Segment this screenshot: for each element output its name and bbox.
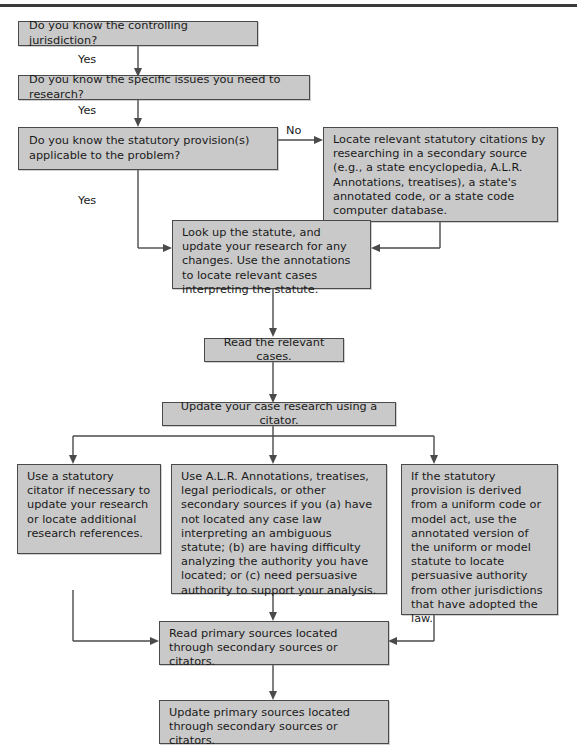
- node-statutory-citator-label: Use a statutory citator if necessary to …: [27, 470, 151, 541]
- node-update-case-research-label: Update your case research using a citato…: [173, 400, 385, 428]
- node-look-up-statute-label: Look up the statute, and update your res…: [182, 226, 361, 297]
- node-look-up-statute[interactable]: Look up the statute, and update your res…: [172, 220, 371, 289]
- node-update-primary-sources-label: Update primary sources located through s…: [169, 706, 379, 749]
- node-specific-issues-label: Do you know the specific issues you need…: [29, 73, 299, 101]
- node-read-primary-sources[interactable]: Read primary sources located through sec…: [159, 621, 389, 665]
- header-rule: [0, 4, 577, 7]
- node-jurisdiction[interactable]: Do you know the controlling jurisdiction…: [18, 21, 258, 46]
- node-update-case-research[interactable]: Update your case research using a citato…: [162, 402, 396, 426]
- edge-label-no-1: No: [286, 124, 301, 137]
- node-read-cases[interactable]: Read the relevant cases.: [204, 338, 344, 362]
- node-specific-issues[interactable]: Do you know the specific issues you need…: [18, 75, 310, 100]
- node-locate-citations[interactable]: Locate relevant statutory citations by r…: [323, 127, 558, 222]
- node-uniform-code-label: If the statutory provision is derived fr…: [411, 470, 548, 626]
- node-read-cases-label: Read the relevant cases.: [215, 336, 333, 364]
- edge-label-yes-2: Yes: [78, 104, 96, 117]
- node-alr-annotations[interactable]: Use A.L.R. Annotations, treatises, legal…: [171, 464, 387, 594]
- edge-label-yes-1: Yes: [78, 53, 96, 66]
- node-statutory-citator[interactable]: Use a statutory citator if necessary to …: [17, 464, 161, 554]
- node-statutory-provision-label: Do you know the statutory provision(s) a…: [29, 134, 267, 162]
- flowchart-canvas: Do you know the controlling jurisdiction…: [0, 0, 577, 753]
- edge-label-yes-3: Yes: [78, 194, 96, 207]
- node-alr-annotations-label: Use A.L.R. Annotations, treatises, legal…: [181, 470, 377, 598]
- node-jurisdiction-label: Do you know the controlling jurisdiction…: [29, 19, 247, 47]
- node-read-primary-sources-label: Read primary sources located through sec…: [169, 627, 379, 670]
- node-locate-citations-label: Locate relevant statutory citations by r…: [333, 133, 548, 218]
- node-uniform-code[interactable]: If the statutory provision is derived fr…: [401, 464, 558, 615]
- node-statutory-provision[interactable]: Do you know the statutory provision(s) a…: [18, 127, 278, 170]
- node-update-primary-sources[interactable]: Update primary sources located through s…: [159, 700, 389, 744]
